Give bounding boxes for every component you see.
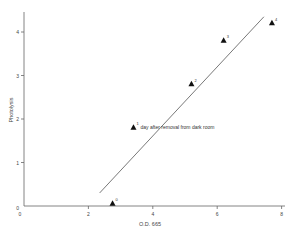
x-tick-label: 4 bbox=[151, 211, 154, 217]
y-tick-label: 2 bbox=[16, 116, 19, 122]
y-ticks: 01234 bbox=[16, 29, 24, 211]
point-label: 3 bbox=[227, 34, 230, 39]
y-tick-label: 0 bbox=[16, 205, 19, 211]
x-tick-label: 0 bbox=[19, 211, 22, 217]
point-label: 1 bbox=[136, 121, 139, 126]
x-ticks: 02468 bbox=[19, 206, 284, 217]
fit-line bbox=[100, 17, 264, 193]
x-tick-label: 6 bbox=[216, 211, 219, 217]
point-label: 0 bbox=[116, 197, 119, 202]
y-tick-label: 3 bbox=[16, 73, 19, 79]
y-tick-label: 4 bbox=[16, 29, 19, 35]
point-label: 4 bbox=[275, 17, 278, 22]
y-tick-label: 1 bbox=[16, 160, 19, 166]
axes bbox=[24, 12, 285, 206]
point-label: 2 bbox=[194, 78, 197, 83]
x-tick-label: 8 bbox=[280, 211, 283, 217]
data-points: 01234 bbox=[110, 17, 278, 206]
regression-line bbox=[100, 17, 264, 193]
annotation-text: day after removal from dark room bbox=[140, 124, 214, 130]
x-tick-label: 2 bbox=[87, 211, 90, 217]
y-axis-label: Photolysis bbox=[8, 97, 14, 122]
scatter-chart: 02468 01234 01234 O.D. 665 Photolysis da… bbox=[0, 0, 298, 235]
x-axis-label: O.D. 665 bbox=[139, 221, 161, 227]
